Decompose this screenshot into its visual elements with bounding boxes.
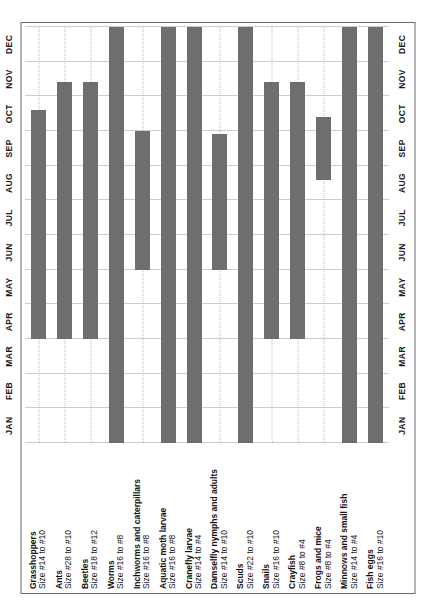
month-label: DEC <box>3 35 13 54</box>
row-label: GrasshoppersSize #14 to #10 <box>28 443 47 589</box>
availability-bar <box>264 82 279 339</box>
month-label: JUN <box>396 243 406 261</box>
month-label: APR <box>396 312 406 331</box>
row-label: Frogs and miceSize #8 to #4 <box>314 443 333 589</box>
row-label: Fish eggsSize #16 to #10 <box>366 443 385 589</box>
row-species-name: Cranefly larvae <box>184 449 194 589</box>
month-label: MAY <box>396 277 406 296</box>
chart-row: Cranefly larvaeSize #14 to #4 <box>181 27 207 443</box>
row-hook-size: Size #16 to #10 <box>271 449 281 589</box>
figure-page: JANFEBMARAPRMAYJUNJULAUGSEPOCTNOVDEC Gra… <box>0 0 435 616</box>
row-species-name: Ants <box>54 449 64 589</box>
month-label: MAY <box>3 277 13 296</box>
row-guideline <box>323 27 324 443</box>
row-hook-size: Size #8 to #4 <box>323 449 333 589</box>
row-hook-size: Size #8 to #4 <box>297 449 307 589</box>
availability-bar <box>342 27 357 443</box>
row-label: Cranefly larvaeSize #14 to #4 <box>184 443 203 589</box>
row-hook-size: Size #14 to #4 <box>194 449 204 589</box>
chart-row: Fish eggsSize #16 to #10 <box>362 27 388 443</box>
row-hook-size: Size #18 to #12 <box>90 449 100 589</box>
availability-bar <box>316 117 331 179</box>
chart-row: Damselfly nymphs and adultsSize #14 to #… <box>207 27 233 443</box>
row-hook-size: Size #16 to #8 <box>142 449 152 589</box>
availability-bar <box>30 110 45 339</box>
month-label: SEP <box>3 139 13 157</box>
row-species-name: Snails <box>262 449 272 589</box>
chart-frame: JANFEBMARAPRMAYJUNJULAUGSEPOCTNOVDEC Gra… <box>20 22 415 594</box>
chart-row: ScudsSize #22 to #10 <box>232 27 258 443</box>
row-species-name: Damselfly nymphs and adults <box>210 449 220 589</box>
chart-row: Minnows and small fishSize #14 to #4 <box>336 27 362 443</box>
row-hook-size: Size #28 to #10 <box>64 449 74 589</box>
row-hook-size: Size #16 to #10 <box>375 449 385 589</box>
month-label: SEP <box>396 139 406 157</box>
row-hook-size: Size #14 to #10 <box>219 449 229 589</box>
availability-bar <box>290 82 305 339</box>
month-label: FEB <box>396 382 406 400</box>
row-species-name: Worms <box>106 449 116 589</box>
row-species-name: Aquatic moth larvae <box>158 449 168 589</box>
month-label: JUL <box>3 209 13 226</box>
row-label: WormsSize #16 to #8 <box>106 443 125 589</box>
row-species-name: Grasshoppers <box>28 449 38 589</box>
chart-row: GrasshoppersSize #14 to #10 <box>25 27 51 443</box>
availability-bar <box>212 134 227 269</box>
availability-bar <box>134 131 149 270</box>
chart-row: BeetlesSize #18 to #12 <box>77 27 103 443</box>
month-label: AUG <box>3 173 13 193</box>
chart-row: CrayfishSize #8 to #4 <box>284 27 310 443</box>
row-label: SnailsSize #16 to #10 <box>262 443 281 589</box>
availability-bar <box>186 27 201 443</box>
row-species-name: Scuds <box>236 449 246 589</box>
availability-bar <box>160 27 175 443</box>
row-label: ScudsSize #22 to #10 <box>236 443 255 589</box>
month-label: NOV <box>3 69 13 89</box>
month-label: DEC <box>396 35 406 54</box>
row-hook-size: Size #14 to #10 <box>38 449 48 589</box>
month-label: APR <box>3 312 13 331</box>
availability-bar <box>108 27 123 443</box>
month-label: FEB <box>3 382 13 400</box>
row-label: Damselfly nymphs and adultsSize #14 to #… <box>210 443 229 589</box>
chart-row: WormsSize #16 to #8 <box>103 27 129 443</box>
row-hook-size: Size #22 to #10 <box>245 449 255 589</box>
month-label: JUL <box>396 209 406 226</box>
chart-row: SnailsSize #16 to #10 <box>258 27 284 443</box>
availability-bar <box>238 27 253 443</box>
month-label: OCT <box>3 104 13 123</box>
availability-bar <box>82 82 97 339</box>
availability-bar <box>56 82 71 339</box>
row-species-name: Minnows and small fish <box>340 449 350 589</box>
chart-row: Frogs and miceSize #8 to #4 <box>310 27 336 443</box>
row-species-name: Inchworms and caterpillars <box>132 449 142 589</box>
month-axis-bottom: JANFEBMARAPRMAYJUNJULAUGSEPOCTNOVDEC <box>390 27 412 443</box>
month-label: MAR <box>3 346 13 367</box>
row-label: Minnows and small fishSize #14 to #4 <box>340 443 359 589</box>
month-label: JAN <box>3 417 13 435</box>
month-label: OCT <box>396 104 406 123</box>
row-label: CrayfishSize #8 to #4 <box>288 443 307 589</box>
row-label: BeetlesSize #18 to #12 <box>80 443 99 589</box>
row-species-name: Frogs and mice <box>314 449 324 589</box>
month-label: JUN <box>3 243 13 261</box>
month-label: NOV <box>396 69 406 89</box>
chart-row: Inchworms and caterpillarsSize #16 to #8 <box>129 27 155 443</box>
availability-bar <box>368 27 383 443</box>
month-label: MAR <box>396 346 406 367</box>
chart-rows: GrasshoppersSize #14 to #10AntsSize #28 … <box>25 27 388 443</box>
row-species-name: Beetles <box>80 449 90 589</box>
plot-area: GrasshoppersSize #14 to #10AntsSize #28 … <box>25 27 388 443</box>
row-label: Aquatic moth larvaeSize #16 to #8 <box>158 443 177 589</box>
rotated-chart-stage: JANFEBMARAPRMAYJUNJULAUGSEPOCTNOVDEC Gra… <box>0 0 435 616</box>
chart-row: Aquatic moth larvaeSize #16 to #8 <box>155 27 181 443</box>
row-label: Inchworms and caterpillarsSize #16 to #8 <box>132 443 151 589</box>
month-label: JAN <box>396 417 406 435</box>
chart-row: AntsSize #28 to #10 <box>51 27 77 443</box>
row-hook-size: Size #16 to #8 <box>168 449 178 589</box>
row-species-name: Crayfish <box>288 449 298 589</box>
row-hook-size: Size #16 to #8 <box>116 449 126 589</box>
row-species-name: Fish eggs <box>366 449 376 589</box>
row-label: AntsSize #28 to #10 <box>54 443 73 589</box>
month-axis-top: JANFEBMARAPRMAYJUNJULAUGSEPOCTNOVDEC <box>0 27 19 443</box>
